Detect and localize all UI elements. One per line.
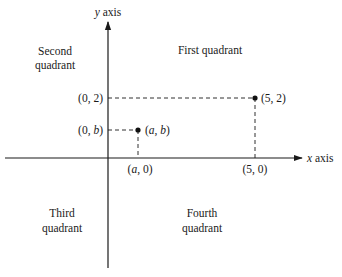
third-quadrant-label-line2: quadrant [42,222,83,235]
first-quadrant-label: First quadrant [178,44,243,57]
coordinate-plane-diagram: y axis x axis First quadrant Second quad… [0,0,342,277]
third-quadrant-label-line1: Third [49,207,75,219]
point-a-b [135,127,140,132]
y-axis-label: y axis [94,6,122,19]
fourth-quadrant-label-line1: Fourth [187,207,218,219]
x-projection-label-5-0: (5, 0) [243,163,268,176]
second-quadrant-label-line2: quadrant [35,59,76,72]
fourth-quadrant-label-line2: quadrant [182,222,223,235]
second-quadrant-label-line1: Second [38,45,72,57]
x-axis-label: x axis [306,152,334,164]
point-label-a-b: (a, b) [145,124,170,137]
y-projection-label-0-2: (0, 2) [78,92,103,105]
point-label-5-2: (5, 2) [261,92,286,105]
y-projection-label-0-b: (0, b) [78,124,103,137]
x-projection-label-a-0: (a, 0) [128,163,153,176]
point-5-2 [252,95,257,100]
